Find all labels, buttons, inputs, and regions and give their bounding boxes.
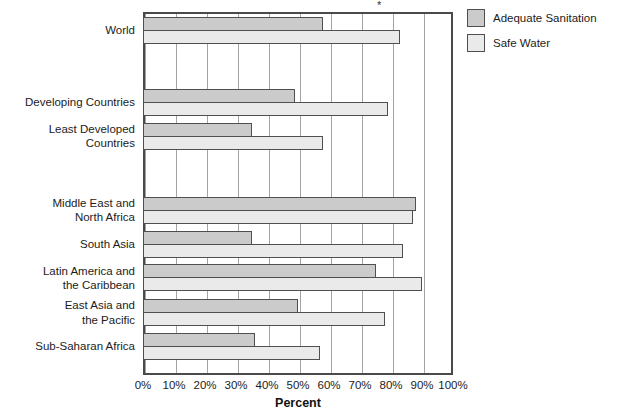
category-label: World [0,23,143,37]
footnote-asterisk: * [377,0,381,11]
x-tick-label: 100% [438,379,467,391]
x-axis-ticks: 0%10%20%30%40%50%60%70%80%90%100% [143,379,453,393]
bar-row: World [0,17,453,44]
bar-row: Sub-Saharan Africa [0,333,453,360]
water-bar [143,277,422,291]
category-label: Middle East and North Africa [0,196,143,225]
x-tick-label: 40% [255,379,278,391]
x-tick-label: 50% [286,379,309,391]
legend-item: Adequate Sanitation [467,9,597,27]
legend: Adequate SanitationSafe Water [467,9,597,59]
water-bar [143,312,385,326]
x-axis-label: Percent [143,396,453,410]
bar-row: East Asia and the Pacific [0,298,453,327]
bar-chart: * WorldDeveloping CountriesLeast Develop… [0,0,624,415]
x-tick-label: 30% [224,379,247,391]
water-bar [143,210,413,224]
sanitation-bar [143,123,252,137]
legend-label: Adequate Sanitation [493,12,597,24]
category-label: South Asia [0,237,143,251]
water-bar [143,30,400,44]
bar-pair [143,231,453,258]
bar-row: Least Developed Countries [0,122,453,151]
sanitation-bar [143,264,376,278]
category-label: Developing Countries [0,95,143,109]
sanitation-bar [143,89,295,103]
x-tick-label: 0% [135,379,152,391]
bar-row: Developing Countries [0,89,453,116]
category-label: Latin America and the Caribbean [0,264,143,293]
x-tick-label: 80% [379,379,402,391]
category-label: East Asia and the Pacific [0,298,143,327]
water-bar [143,136,323,150]
bar-pair [143,17,453,44]
sanitation-bar [143,17,323,31]
bar-row: Middle East and North Africa [0,196,453,225]
bar-row: Latin America and the Caribbean [0,264,453,293]
water-bar [143,346,320,360]
legend-swatch-icon [467,9,485,27]
bar-pair [143,264,453,291]
x-tick-label: 60% [317,379,340,391]
water-bar [143,102,388,116]
bar-pair [143,299,453,326]
bar-pair [143,89,453,116]
x-tick-label: 20% [193,379,216,391]
x-tick-label: 90% [410,379,433,391]
category-label: Sub-Saharan Africa [0,339,143,353]
sanitation-bar [143,333,255,347]
bar-pair [143,333,453,360]
legend-item: Safe Water [467,34,597,52]
sanitation-bar [143,197,416,211]
bar-pair [143,197,453,224]
legend-label: Safe Water [493,37,550,49]
x-tick-label: 70% [348,379,371,391]
legend-swatch-icon [467,34,485,52]
sanitation-bar [143,299,298,313]
x-tick-label: 10% [162,379,185,391]
bar-row: South Asia [0,231,453,258]
bar-rows: WorldDeveloping CountriesLeast Developed… [0,12,453,375]
bar-pair [143,123,453,150]
category-label: Least Developed Countries [0,122,143,151]
water-bar [143,244,403,258]
sanitation-bar [143,231,252,245]
